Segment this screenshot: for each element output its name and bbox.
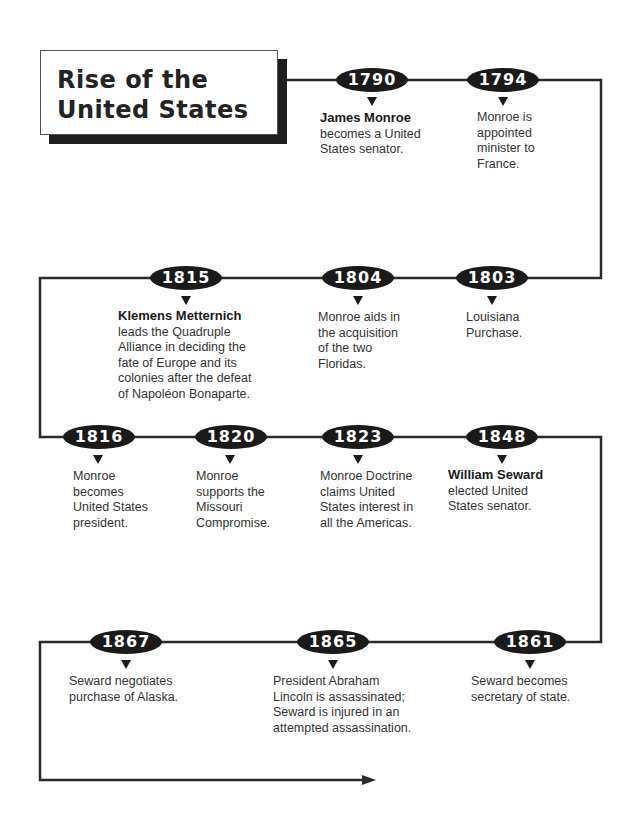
pointer-down-icon [498,97,508,106]
year-badge: 1865 [297,630,369,654]
event-description: Monroe Doctrine claims United States int… [320,469,415,531]
event-description: Seward negotiates purchase of Alaska. [69,674,184,705]
arrow-head-icon [362,775,376,785]
pointer-down-icon [93,455,103,464]
event-text: becomes a United States senator. [320,127,421,157]
pointer-down-icon [353,455,363,464]
event-description: Monroe becomes United States president. [73,469,153,531]
year-badge: 1848 [466,425,538,449]
pointer-down-icon [225,455,235,464]
year-badge: 1820 [195,425,267,449]
pointer-down-icon [121,660,131,669]
year-badge: 1804 [322,266,394,290]
event-text: Seward becomes secretary of state. [471,674,570,704]
title-box: Rise of the United States [40,50,278,135]
event-description: Monroe aids in the acquisition of the tw… [318,310,408,372]
year-badge: 1794 [467,68,539,92]
year-badge: 1867 [90,630,162,654]
event-text: elected United States senator. [448,484,531,514]
pointer-down-icon [181,296,191,305]
event-description: Klemens Metternichleads the Quadruple Al… [118,308,258,402]
pointer-down-icon [328,660,338,669]
event-subject: Klemens Metternich [118,308,242,323]
year-badge: 1815 [150,266,222,290]
event-description: Monroe is appointed minister to France. [477,110,552,172]
year-badge: 1816 [63,425,135,449]
event-description: Monroe supports the Missouri Compromise. [196,469,276,531]
event-text: Monroe supports the Missouri Compromise. [196,469,270,530]
event-text: Seward negotiates purchase of Alaska. [69,674,178,704]
year-badge: 1823 [322,425,394,449]
event-text: Monroe aids in the acquisition of the tw… [318,310,400,371]
event-text: Monroe Doctrine claims United States int… [320,469,413,530]
event-subject: James Monroe [320,110,411,125]
year-badge: 1790 [336,68,408,92]
event-text: leads the Quadruple Alliance in deciding… [118,325,251,401]
pointer-down-icon [497,455,507,464]
event-subject: William Seward [448,467,543,482]
title-line-2: United States [57,95,249,125]
event-text: President Abraham Lincoln is assassinate… [273,674,411,735]
event-description: President Abraham Lincoln is assassinate… [273,674,413,736]
year-badge: 1861 [494,630,566,654]
event-description: James Monroebecomes a United States sena… [320,110,430,158]
event-text: Louisiana Purchase. [466,310,522,340]
event-text: Monroe is appointed minister to France. [477,110,535,171]
event-description: William Sewardelected United States sena… [448,467,558,515]
pointer-down-icon [367,97,377,106]
year-badge: 1803 [456,266,528,290]
pointer-down-icon [525,660,535,669]
title-line-1: Rise of the [57,65,249,95]
event-description: Seward becomes secretary of state. [471,674,571,705]
pointer-down-icon [487,296,497,305]
page-title: Rise of the United States [57,65,249,125]
event-text: Monroe becomes United States president. [73,469,148,530]
event-description: Louisiana Purchase. [466,310,536,341]
pointer-down-icon [353,296,363,305]
